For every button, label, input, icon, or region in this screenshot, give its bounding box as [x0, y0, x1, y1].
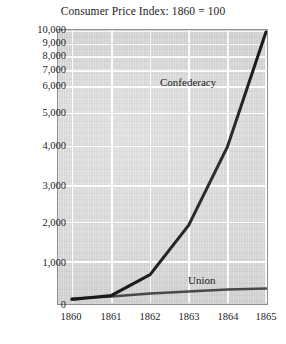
y-axis-tick-0: 0	[14, 300, 66, 311]
series-line-confederacy	[72, 32, 266, 299]
chart-figure: Consumer Price Index: 1860 = 100	[0, 0, 286, 344]
y-axis-tick-2000: 2,000	[14, 218, 66, 229]
y-axis-tick-1000: 1,000	[14, 258, 66, 269]
y-axis-tick-4000: 4,000	[14, 141, 66, 152]
y-axis-tick-3000: 3,000	[14, 181, 66, 192]
y-axis-tick-7000: 7,000	[14, 65, 66, 76]
x-axis-tick-1865: 1865	[243, 312, 286, 323]
y-axis-tick-10000: 10,000	[14, 25, 66, 36]
series-label-union: Union	[188, 274, 216, 286]
y-axis-tick-6000: 6,000	[14, 81, 66, 92]
data-series	[58, 30, 267, 303]
chart-title: Consumer Price Index: 1860 = 100	[0, 5, 286, 17]
y-axis-tick-8000: 8,000	[14, 51, 66, 62]
series-label-confederacy: Confederacy	[160, 76, 216, 88]
plot-area	[57, 29, 268, 305]
y-axis-tick-9000: 9,000	[14, 38, 66, 49]
y-axis-tick-5000: 5,000	[14, 108, 66, 119]
